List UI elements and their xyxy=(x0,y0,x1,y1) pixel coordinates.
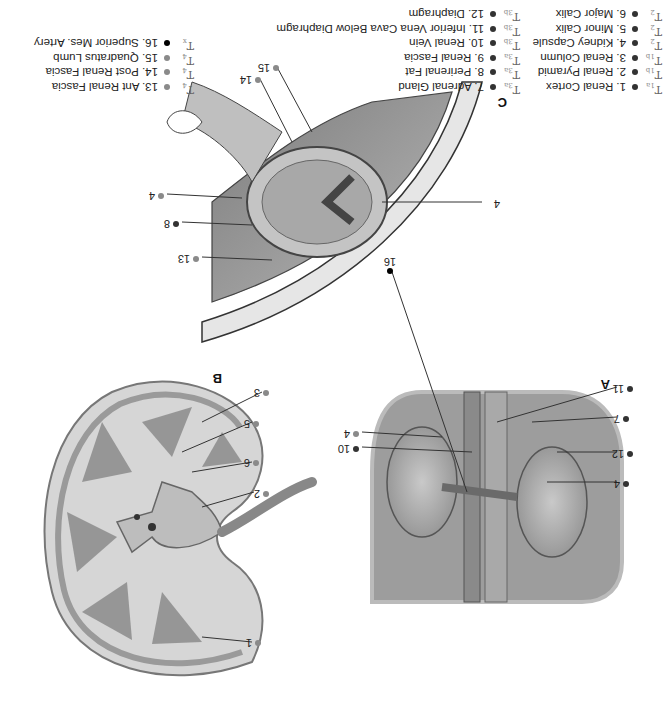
callout-b-2: 2 xyxy=(254,488,272,500)
legend-item: T1b2. Renal Pyramid xyxy=(533,65,662,80)
callout-a-16: 16 xyxy=(384,256,396,274)
panel-label-b: B xyxy=(213,371,222,386)
legend-item: Tx16. Superior Mes. Artery xyxy=(34,36,194,51)
legend-item: T24. Kidney Capsule xyxy=(533,36,662,51)
legend-item: T25. Minor Calix xyxy=(533,22,662,37)
panel-c-transverse-section xyxy=(167,82,482,342)
callout-b-1: 1 xyxy=(246,637,264,649)
callout-b-3: 3 xyxy=(254,387,272,399)
legend-item: T415. Quadratus Lumb xyxy=(34,51,194,66)
legend-column-1: T1a1. Renal Cortex T1b2. Renal Pyramid T… xyxy=(533,7,662,94)
panel-label-a: A xyxy=(601,377,610,392)
callout-c-4: 4 xyxy=(494,198,500,210)
callout-c-13: 13 xyxy=(178,253,202,265)
callout-c-8: 8 xyxy=(164,218,182,230)
panel-b-kidney-section xyxy=(45,382,313,675)
legend-item: T1a1. Renal Cortex xyxy=(533,80,662,95)
callout-a-11: 11 xyxy=(613,383,636,395)
panel-label-c: C xyxy=(498,95,507,110)
atlas-page: A B C 4 12 7 11 16 4 10 1 2 6 5 3 4 13 8… xyxy=(0,0,672,722)
illustrations xyxy=(0,0,672,722)
legend-item: T3b12. Diaphragm xyxy=(276,7,520,22)
callout-b-5: 5 xyxy=(244,418,262,430)
callout-c-4b: 4 xyxy=(149,190,167,202)
callout-a-4: 4 xyxy=(614,478,632,490)
callout-c-14: 14 xyxy=(240,74,264,86)
legend-item: T26. Major Calix xyxy=(533,7,662,22)
callout-a-12: 12 xyxy=(612,448,636,460)
legend-column-3: T413. Ant Renal Fascia T414. Post Renal … xyxy=(34,36,194,94)
panel-a-abdominal-wall xyxy=(372,392,622,602)
legend-item: T3a7. Adrenal Gland xyxy=(276,80,520,95)
legend-item: T3b10. Renal Vein xyxy=(276,36,520,51)
legend-item: T3a8. Perirenal Fat xyxy=(276,65,520,80)
legend-column-2: T3a7. Adrenal Gland T3a8. Perirenal Fat … xyxy=(276,7,520,94)
legend-item: T1b3. Renal Column xyxy=(533,51,662,66)
legend-item: T3b11. Inferior Vena Cava Below Diaphrag… xyxy=(276,22,520,37)
legend-item: T414. Post Renal Fascia xyxy=(34,65,194,80)
callout-b-6: 6 xyxy=(244,457,262,469)
legend-item: T3a9. Renal Fascia xyxy=(276,51,520,66)
callout-a-4b: 4 xyxy=(344,428,362,440)
callout-a-10: 10 xyxy=(338,443,362,455)
legend-item: T413. Ant Renal Fascia xyxy=(34,80,194,95)
callout-a-7: 7 xyxy=(614,413,632,425)
